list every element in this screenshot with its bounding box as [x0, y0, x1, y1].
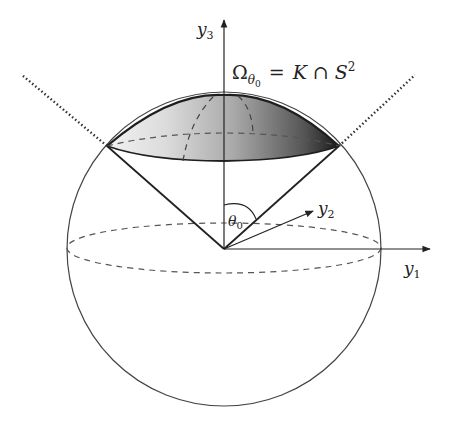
spherical-cap — [107, 95, 339, 161]
cone-left-extension — [22, 75, 107, 146]
y1-label: y1 — [403, 258, 421, 281]
theta0-label: θ0 — [228, 213, 243, 231]
sphere-cone-diagram: y3 Ωθ0=K∩S2 θ0 y2 y1 — [0, 0, 460, 422]
omega-equation-label: Ωθ0=K∩S2 — [232, 60, 355, 89]
y3-label: y3 — [196, 19, 214, 42]
y2-label: y2 — [317, 198, 335, 221]
cone-right-extension — [339, 75, 415, 146]
